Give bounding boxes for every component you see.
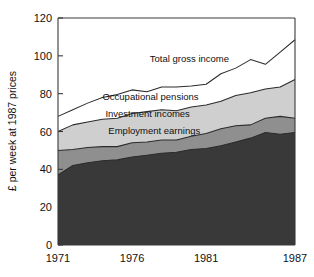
- y-tick-label: 100: [34, 50, 52, 62]
- stacked-area-chart: 020406080100120 1971197619811987 Employm…: [0, 0, 314, 277]
- x-tick-label: 1981: [194, 252, 218, 264]
- y-tick-label: 40: [40, 163, 52, 175]
- series-label-occupational-pensions: Occupational pensions: [102, 91, 198, 102]
- y-tick-label: 20: [40, 201, 52, 213]
- y-tick-label: 60: [40, 126, 52, 138]
- series-label-investment-incomes: Investment incomes: [105, 108, 190, 119]
- y-tick-label: 80: [40, 88, 52, 100]
- chart-canvas: 020406080100120 1971197619811987 Employm…: [0, 0, 314, 277]
- x-axis-ticks: 1971197619811987: [46, 252, 307, 264]
- y-axis-title: £ per week at 1987 prices: [6, 71, 18, 191]
- x-tick-label: 1971: [46, 252, 70, 264]
- y-tick-label: 0: [46, 239, 52, 251]
- series-label-total-gross-income: Total gross income: [150, 53, 229, 64]
- x-tick-label: 1987: [283, 252, 307, 264]
- y-tick-label: 120: [34, 12, 52, 24]
- x-tick-label: 1976: [120, 252, 144, 264]
- series-label-employment-earnings: Employment earnings: [108, 125, 200, 136]
